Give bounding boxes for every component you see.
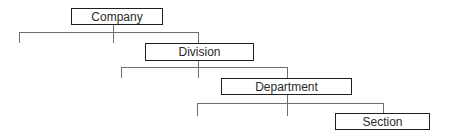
division-branch-right — [287, 67, 288, 78]
department-box: Department — [221, 78, 352, 95]
department-branch-mid — [287, 103, 288, 116]
division-branch-left — [121, 67, 122, 78]
department-branch-bar — [197, 103, 384, 104]
company-branch-mid — [113, 32, 114, 43]
department-stem — [287, 95, 288, 103]
division-branch-bar — [121, 67, 288, 68]
company-label: Company — [91, 10, 142, 24]
company-branch-bar — [19, 32, 199, 33]
department-label: Department — [255, 80, 318, 94]
section-box: Section — [335, 113, 430, 130]
department-branch-right — [383, 103, 384, 113]
section-label: Section — [362, 115, 402, 129]
division-branch-mid — [198, 67, 199, 78]
division-label: Division — [178, 45, 220, 59]
company-branch-right — [198, 32, 199, 43]
division-box: Division — [145, 43, 254, 61]
company-branch-left — [19, 32, 20, 43]
department-branch-left — [197, 103, 198, 116]
company-box: Company — [71, 8, 163, 25]
